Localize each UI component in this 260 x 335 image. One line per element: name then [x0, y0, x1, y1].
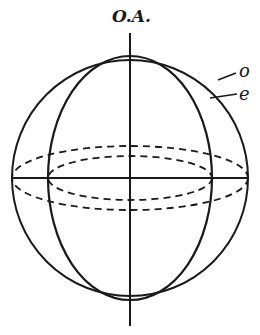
- ordinary-leader-line: [218, 73, 236, 80]
- ordinary-label: o: [239, 60, 250, 81]
- wave-surface-diagram: O.A. o e: [0, 0, 260, 335]
- extraordinary-label: e: [239, 83, 250, 104]
- optic-axis-label: O.A.: [112, 6, 151, 26]
- diagram-canvas: O.A. o e: [0, 0, 260, 335]
